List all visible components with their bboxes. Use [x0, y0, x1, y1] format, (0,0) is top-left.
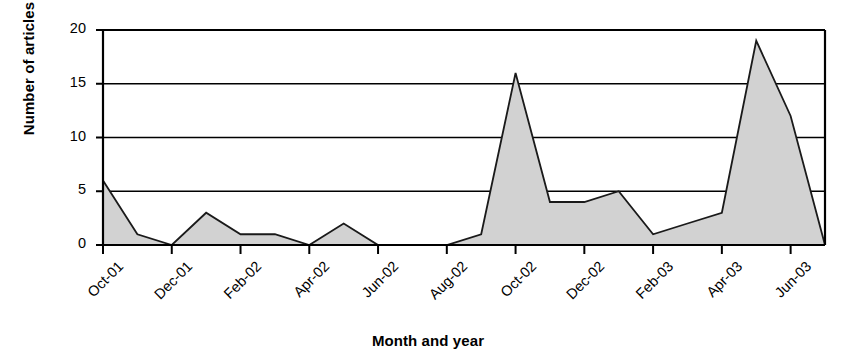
- y-axis-title: Number of articles: [20, 0, 37, 169]
- y-tick-label: 0: [46, 235, 86, 251]
- y-tick-label: 20: [46, 20, 86, 36]
- y-tick-label: 10: [46, 128, 86, 144]
- y-tick-label: 15: [46, 74, 86, 90]
- y-tick-label: 5: [46, 181, 86, 197]
- gridlines: [103, 30, 825, 245]
- chart-container: Number of articles Month and year 051015…: [0, 0, 856, 363]
- area-series: [103, 41, 825, 245]
